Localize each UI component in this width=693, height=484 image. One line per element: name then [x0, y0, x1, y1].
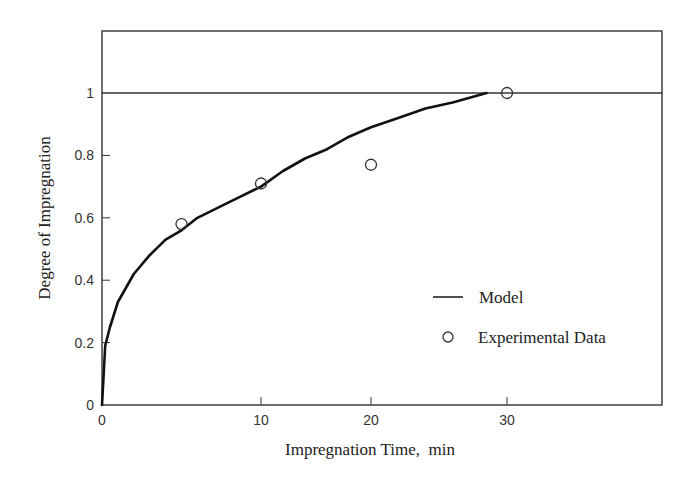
y-axis-title: Degree of Impregnation — [35, 136, 54, 300]
model-line — [102, 93, 487, 405]
x-tick-label: 20 — [363, 412, 379, 428]
legend-item-experimental: Experimental Data — [443, 328, 606, 347]
legend-label-model: Model — [479, 288, 524, 307]
y-tick-label: 0.2 — [75, 335, 95, 351]
plot-frame — [102, 31, 662, 405]
x-axis-ticks: 0102030 — [98, 397, 515, 428]
x-tick-label: 10 — [253, 412, 269, 428]
legend-label-experimental: Experimental Data — [478, 328, 606, 347]
chart: 00.20.40.60.81 0102030 Impregnation Time… — [0, 0, 693, 484]
x-axis-title: Impregnation Time, min — [285, 440, 456, 459]
y-tick-label: 0.6 — [75, 210, 95, 226]
legend: Model Experimental Data — [433, 288, 606, 347]
y-tick-label: 0.8 — [75, 147, 95, 163]
x-tick-label: 0 — [98, 412, 106, 428]
data-point-circle — [366, 159, 377, 170]
y-tick-label: 1 — [86, 85, 94, 101]
y-tick-label: 0 — [86, 397, 94, 413]
model-curve — [102, 93, 487, 405]
plot-border — [102, 31, 662, 405]
data-point-circle — [176, 219, 187, 230]
experimental-data-points — [176, 88, 513, 230]
legend-circle-icon — [443, 332, 453, 342]
x-tick-label: 30 — [499, 412, 515, 428]
legend-item-model: Model — [433, 288, 524, 307]
y-tick-label: 0.4 — [75, 272, 95, 288]
